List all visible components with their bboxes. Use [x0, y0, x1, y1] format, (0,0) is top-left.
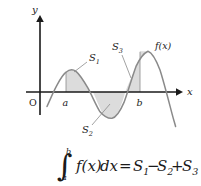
formula-term-s3: S3	[182, 157, 198, 177]
region-label-s2: S2	[82, 124, 93, 138]
x-axis-arrow-icon	[176, 88, 183, 96]
formula-term-s3-subscript: 3	[192, 166, 198, 177]
equals-sign: =	[119, 157, 132, 175]
formula-equation: ∫ b a f(x) dx = S1 − S2 + S3	[57, 147, 198, 183]
region-label-s3-subscript: 3	[119, 47, 123, 55]
y-axis-arrow-icon	[36, 15, 44, 22]
integral-lower-limit: a	[62, 173, 67, 182]
y-axis-label: y	[31, 4, 38, 15]
integral-upper-limit: b	[66, 147, 71, 156]
x-axis-label: x	[187, 86, 193, 97]
leader-line-s1	[74, 62, 87, 72]
region-label-s3: S3	[112, 41, 123, 55]
tick-label-b: b	[137, 97, 143, 108]
formula-term-s1-base: S	[133, 157, 143, 175]
formula-term-s2-base: S	[157, 157, 167, 175]
origin-label: O	[29, 97, 37, 108]
formula-term-s3-base: S	[182, 157, 192, 175]
region-label-s2-subscript: 2	[88, 130, 93, 138]
leader-line-s3	[122, 55, 131, 78]
function-label: f(x)	[154, 40, 172, 51]
integral-diagram-svg: y x O a b f(x) S1 S2 S3 ∫ b a f(x) dx =	[0, 0, 201, 186]
region-label-s1: S1	[89, 52, 100, 66]
integrand-label: f(x)	[75, 157, 102, 175]
figure-container: y x O a b f(x) S1 S2 S3 ∫ b a f(x) dx =	[0, 0, 201, 186]
tick-label-a: a	[63, 97, 69, 108]
region-label-s1-subscript: 1	[96, 58, 100, 66]
differential-label: dx	[100, 157, 119, 175]
